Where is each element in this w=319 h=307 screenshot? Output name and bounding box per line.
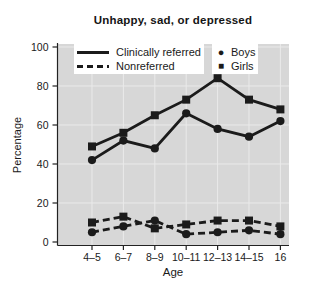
legend-item-boys: ● Boys <box>215 45 255 59</box>
data-point-square <box>182 220 190 228</box>
data-point-square <box>276 105 284 113</box>
data-point-square <box>214 74 222 82</box>
legend-item-clinically-referred: Clinically referred <box>77 45 201 59</box>
legend-label-boys: Boys <box>231 45 255 59</box>
x-tick-label: 12–13 <box>203 251 232 263</box>
data-point-square <box>276 222 284 230</box>
y-tick-label: 80 <box>37 80 49 92</box>
data-point-square <box>119 129 127 137</box>
data-point-circle <box>276 230 284 238</box>
legend-label-clinically-referred: Clinically referred <box>116 45 201 59</box>
legend-item-nonreferred: Nonreferred <box>77 59 201 73</box>
data-point-square <box>182 96 190 104</box>
data-point-circle <box>214 125 222 133</box>
legend-label-nonreferred: Nonreferred <box>116 59 175 73</box>
legend-label-girls: Girls <box>231 59 254 73</box>
data-point-circle <box>88 228 96 236</box>
legend-item-girls: ■ Girls <box>215 59 255 73</box>
data-point-circle <box>245 226 253 234</box>
data-point-square <box>214 217 222 225</box>
data-point-circle <box>88 156 96 164</box>
data-point-circle <box>276 117 284 125</box>
data-point-circle <box>214 228 222 236</box>
data-point-square <box>245 217 253 225</box>
data-point-square <box>245 96 253 104</box>
y-tick-label: 0 <box>43 236 49 248</box>
x-axis-label: Age <box>57 266 289 278</box>
legend-markers: ● Boys ■ Girls <box>212 44 258 74</box>
data-point-square <box>119 213 127 221</box>
data-point-square <box>88 142 96 150</box>
x-tick-label: 8–9 <box>146 251 164 263</box>
x-tick-label: 4–5 <box>83 251 101 263</box>
data-point-square <box>151 224 159 232</box>
figure-container: Unhappy, sad, or depressed Percentage 02… <box>0 0 319 307</box>
data-point-circle <box>182 230 190 238</box>
x-tick-label: 16 <box>275 251 287 263</box>
data-point-circle <box>119 222 127 230</box>
data-point-square <box>88 219 96 227</box>
square-marker-icon: ■ <box>215 59 227 73</box>
x-tick-label: 6–7 <box>115 251 133 263</box>
dashed-line-icon <box>77 65 109 68</box>
legend-line-styles: Clinically referred Nonreferred <box>74 44 204 74</box>
x-tick-label: 10–11 <box>172 251 201 263</box>
y-tick-label: 40 <box>37 158 49 170</box>
circle-marker-icon: ● <box>215 45 227 59</box>
data-point-circle <box>182 109 190 117</box>
y-tick-label: 100 <box>31 41 49 53</box>
solid-line-icon <box>77 51 109 54</box>
y-tick-label: 60 <box>37 119 49 131</box>
data-point-circle <box>245 133 253 141</box>
x-tick-label: 14–15 <box>234 251 263 263</box>
data-point-square <box>151 111 159 119</box>
data-point-circle <box>151 216 159 224</box>
data-point-circle <box>151 144 159 152</box>
data-point-circle <box>119 137 127 145</box>
y-tick-label: 20 <box>37 197 49 209</box>
